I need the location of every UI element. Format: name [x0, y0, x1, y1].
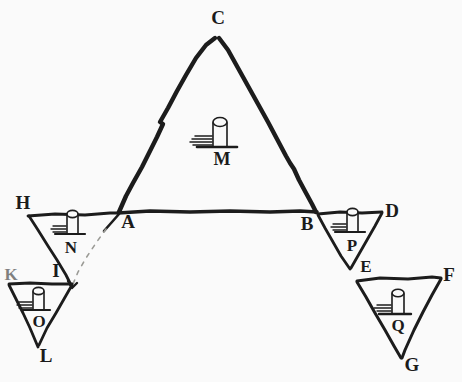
vertex-label-I: I: [52, 260, 59, 281]
vertex-label-H: H: [16, 192, 31, 213]
station-label-O: O: [32, 312, 45, 331]
edge-E-F: [357, 277, 441, 281]
sight-line-A-I: [73, 229, 106, 284]
tower-marker-M: [190, 118, 237, 148]
hatch-M: [190, 136, 212, 145]
vertex-label-K: K: [4, 265, 18, 284]
edge-A-B: [118, 211, 317, 213]
edge-C-B: [219, 38, 316, 212]
hatch-Q: [374, 305, 391, 311]
vertex-label-F: F: [443, 264, 455, 285]
station-label-P: P: [347, 236, 357, 255]
station-label-N: N: [65, 238, 78, 257]
edge-F-G: [402, 279, 441, 358]
station-label-M: M: [214, 149, 231, 169]
edge-A-C: [119, 38, 215, 212]
vertex-label-G: G: [405, 354, 420, 375]
station-label-Q: Q: [391, 316, 404, 335]
tower-marker-Q: [374, 289, 411, 314]
vertex-label-D: D: [385, 200, 399, 221]
hatch-N: [51, 226, 66, 232]
vertex-label-B: B: [301, 213, 314, 234]
tower-marker-O: [17, 287, 50, 310]
vertex-label-C: C: [211, 7, 225, 28]
edge-K-I: [9, 283, 72, 284]
edge-B-E: [318, 215, 350, 269]
hatch-P: [331, 224, 346, 230]
vertex-label-E: E: [360, 257, 371, 276]
figure-root: C A B H D I E K F L G M N P O Q: [0, 0, 462, 382]
triangulation-diagram: C A B H D I E K F L G M N P O Q: [0, 0, 462, 382]
vertex-label-A: A: [121, 211, 135, 232]
vertex-label-L: L: [40, 345, 53, 366]
